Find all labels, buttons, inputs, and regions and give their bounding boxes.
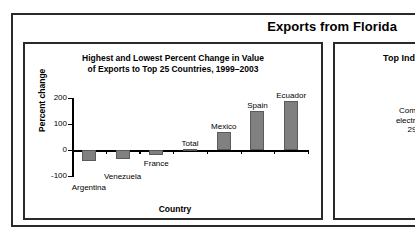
top-industry-panel: Top Industry Comput electronic 29. ( 2 (333, 42, 415, 220)
industry-panel-title: Top Industry (335, 53, 415, 63)
bar-total (183, 149, 197, 151)
bar-chart-panel: Highest and Lowest Percent Change in Val… (23, 42, 323, 220)
bar-label-france: France (144, 159, 169, 168)
y-axis-line (72, 98, 74, 177)
plot-area: 2001000-100ArgentinaVenezuelaFranceTotal… (72, 98, 308, 203)
bar-label-spain: Spain (247, 101, 267, 110)
x-axis-tick (173, 150, 174, 154)
bar-label-ecuador: Ecuador (276, 91, 306, 100)
y-axis-tick-label: 200 (54, 94, 67, 102)
pie-slice-label-secondary: ( 2 (391, 162, 415, 181)
x-axis-tick (139, 150, 140, 154)
x-axis-title: Country (25, 204, 325, 214)
bar-spain (250, 111, 264, 150)
y-axis-title: Percent change (37, 69, 47, 132)
bar-label-mexico: Mexico (211, 122, 236, 131)
bar-venezuela (116, 150, 130, 159)
x-axis-tick (207, 150, 208, 154)
chart-title: Highest and Lowest Percent Change in Val… (25, 53, 321, 75)
x-axis-tick (308, 150, 309, 154)
y-axis-tick (68, 124, 73, 125)
x-axis-tick (106, 150, 107, 154)
y-axis-tick-label: -100 (51, 172, 67, 180)
y-axis-tick-label: 0 (63, 146, 67, 154)
x-axis-tick (241, 150, 242, 154)
y-axis-tick (68, 98, 73, 99)
bar-ecuador (284, 101, 298, 150)
bar-label-argentina: Argentina (72, 183, 106, 192)
bar-label-total: Total (182, 139, 199, 148)
y-axis-tick-label: 100 (54, 120, 67, 128)
page-title: Exports from Florida (13, 19, 397, 34)
y-axis-tick (68, 150, 73, 151)
pie-label-line-3: 29. (407, 125, 415, 134)
bar-mexico (217, 132, 231, 150)
bar-label-venezuela: Venezuela (104, 172, 141, 181)
report-frame: Exports from Florida Highest and Lowest … (11, 13, 415, 227)
bar-argentina (82, 150, 96, 161)
x-axis-tick (274, 150, 275, 154)
pie-label-line-2: electronic (396, 116, 415, 125)
chart-title-line-2: of Exports to Top 25 Countries, 1999–200… (25, 64, 321, 75)
pie-slice-label-computers: Comput electronic 29. (353, 106, 415, 135)
bar-france (149, 150, 163, 155)
y-axis-tick (68, 176, 73, 177)
pie-label-line-1: Comput (399, 106, 415, 115)
chart-title-line-1: Highest and Lowest Percent Change in Val… (25, 53, 321, 64)
